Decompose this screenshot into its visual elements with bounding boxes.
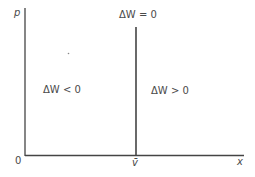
threshold-label: v̄	[132, 158, 138, 168]
origin-label: 0	[15, 156, 21, 166]
right-region-label: ΔW > 0	[151, 86, 189, 96]
boundary-label: ΔW = 0	[119, 10, 157, 20]
x-axis-label: x	[237, 157, 243, 167]
left-region-label: ΔW < 0	[43, 85, 81, 95]
y-axis-label: p	[14, 8, 20, 18]
stray-dot	[68, 53, 70, 55]
diagram-canvas	[0, 0, 255, 177]
